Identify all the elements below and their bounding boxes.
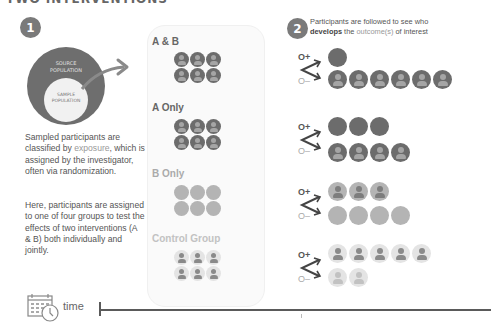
group-b-only-grid — [174, 185, 221, 216]
sample-label-line2: POPULATION — [44, 98, 88, 104]
participant-icon — [206, 250, 221, 265]
negative-row — [328, 206, 410, 225]
group-a-and-b-grid — [174, 52, 221, 83]
exposure-description: Sampled participants are classified by e… — [25, 132, 145, 177]
participant-icon — [174, 185, 189, 200]
participant-icon — [190, 52, 205, 67]
participant-icon — [174, 266, 189, 281]
participant-icon — [206, 201, 221, 216]
negative-row — [328, 143, 410, 162]
negative-row — [328, 268, 368, 287]
participant-icon — [206, 119, 221, 134]
timeline: time — [0, 290, 491, 336]
participant-icon — [174, 201, 189, 216]
group-label-a-only: A Only — [152, 102, 184, 113]
group-label-a-and-b: A & B — [152, 36, 179, 47]
positive-row — [328, 117, 389, 136]
timeline-tick — [301, 314, 302, 318]
participant-icon — [206, 185, 221, 200]
outcome-text-end: of interest — [393, 27, 428, 36]
participant-icon — [370, 206, 389, 225]
participant-icon — [174, 250, 189, 265]
outcome-text-line1: Participants are followed to see who — [310, 17, 490, 27]
groups-description: Here, participants are assigned to one o… — [25, 200, 145, 256]
participant-icon — [433, 70, 452, 89]
participant-icon — [328, 206, 347, 225]
participant-icon — [328, 70, 347, 89]
outcome-text-line2: develops the outcome(s) of interest — [310, 27, 490, 37]
participant-icon — [328, 182, 347, 201]
participant-icon — [391, 244, 410, 263]
time-label: time — [63, 300, 84, 312]
participant-icon — [190, 266, 205, 281]
participant-icon — [349, 143, 368, 162]
step-2-badge: 2 — [287, 18, 308, 39]
participant-icon — [206, 68, 221, 83]
participant-icon — [174, 68, 189, 83]
participant-icon — [391, 70, 410, 89]
participant-icon — [206, 266, 221, 281]
participant-icon — [206, 135, 221, 150]
participant-icon — [174, 119, 189, 134]
timeline-axis — [101, 309, 491, 311]
participant-icon — [174, 135, 189, 150]
negative-row — [328, 70, 452, 89]
calendar-clock-icon — [27, 293, 63, 323]
participant-icon — [190, 250, 205, 265]
step-1-badge: 1 — [20, 17, 41, 38]
group-a-only-grid — [174, 119, 221, 150]
participant-icon — [349, 244, 368, 263]
group-label-control: Control Group — [152, 233, 220, 244]
participant-icon — [391, 143, 410, 162]
participant-icon — [370, 182, 389, 201]
outcome-text-mid: the — [342, 27, 356, 36]
participant-icon — [370, 117, 389, 136]
participant-icon — [190, 68, 205, 83]
participant-icon — [412, 244, 431, 263]
participant-icon — [391, 206, 410, 225]
participant-icon — [328, 143, 347, 162]
participant-icon — [190, 185, 205, 200]
participant-icon — [370, 143, 389, 162]
participant-icon — [349, 206, 368, 225]
positive-row — [328, 244, 431, 263]
participant-icon — [349, 268, 368, 287]
participant-icon — [190, 119, 205, 134]
participant-icon — [412, 70, 431, 89]
participant-icon — [349, 182, 368, 201]
positive-row — [328, 182, 389, 201]
branch-arrows-icon — [299, 59, 325, 81]
arrow-to-groups-icon — [80, 55, 130, 95]
participant-icon — [174, 52, 189, 67]
branch-arrows-icon — [299, 194, 325, 216]
participant-icon — [370, 244, 389, 263]
participant-icon — [328, 48, 347, 67]
participant-icon — [190, 201, 205, 216]
branch-arrows-icon — [299, 129, 325, 151]
group-label-b-only: B Only — [152, 168, 184, 179]
participant-icon — [349, 117, 368, 136]
group-control-grid — [174, 250, 221, 281]
participant-icon — [206, 52, 221, 67]
positive-row — [328, 48, 347, 67]
participant-icon — [328, 117, 347, 136]
participant-icon — [190, 135, 205, 150]
outcome-description: Participants are followed to see who dev… — [310, 17, 490, 37]
exposure-highlight: exposure — [74, 143, 109, 153]
page-title: TWO INTERVENTIONS — [6, 0, 168, 6]
develops-bold: develops — [310, 27, 342, 36]
participant-icon — [349, 70, 368, 89]
outcome-highlight: outcome(s) — [356, 27, 393, 36]
participant-icon — [370, 70, 389, 89]
participant-icon — [328, 244, 347, 263]
participant-icon — [328, 268, 347, 287]
branch-arrows-icon — [299, 257, 325, 279]
